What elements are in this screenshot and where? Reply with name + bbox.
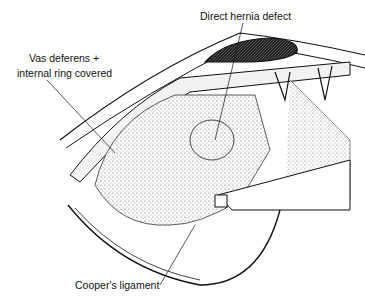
label-direct-hernia-defect: Direct hernia defect <box>200 10 291 22</box>
label-internal-ring: internal ring covered <box>17 67 112 79</box>
illustration <box>0 0 365 306</box>
instrument-tip <box>215 195 227 207</box>
label-coopers-ligament: Cooper's ligament <box>75 279 159 291</box>
leader-vas <box>47 80 115 153</box>
leader-cooper <box>160 225 195 285</box>
label-vas-deferens: Vas deferens + <box>29 52 99 64</box>
